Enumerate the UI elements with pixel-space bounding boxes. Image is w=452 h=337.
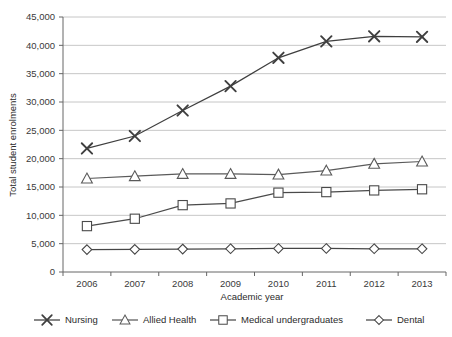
y-tick-label: 5,000 <box>31 238 55 249</box>
y-tick-label: 15,000 <box>26 181 55 192</box>
line-chart: 05,00010,00015,00020,00025,00030,00035,0… <box>0 0 452 337</box>
x-axis-title: Academic year <box>221 291 284 302</box>
y-tick-label: 40,000 <box>26 40 55 51</box>
legend-label: Medical undergraduates <box>241 314 343 325</box>
legend-item-allied-health[interactable]: Allied Health <box>112 314 196 325</box>
y-tick-label: 35,000 <box>26 68 55 79</box>
data-point-square <box>370 186 379 195</box>
data-point-square <box>130 214 139 223</box>
y-tick-label: 10,000 <box>26 210 55 221</box>
data-point-square <box>322 188 331 197</box>
data-point-square <box>226 199 235 208</box>
y-tick-label: 45,000 <box>26 11 55 22</box>
data-point-square <box>82 222 91 231</box>
x-tick-label: 2011 <box>316 278 336 289</box>
y-tick-label: 30,000 <box>26 96 55 107</box>
x-tick-label: 2009 <box>220 278 241 289</box>
legend-label: Nursing <box>65 314 98 325</box>
data-point-square <box>219 316 227 324</box>
chart-container: 05,00010,00015,00020,00025,00030,00035,0… <box>0 0 452 337</box>
data-point-square <box>178 201 187 210</box>
legend-label: Dental <box>397 314 424 325</box>
data-point-square <box>417 185 426 194</box>
x-tick-label: 2010 <box>268 278 289 289</box>
legend-label: Allied Health <box>143 314 196 325</box>
x-tick-label: 2007 <box>124 278 145 289</box>
x-tick-label: 2006 <box>76 278 97 289</box>
data-point-square <box>274 188 283 197</box>
x-tick-label: 2012 <box>364 278 385 289</box>
y-tick-label: 20,000 <box>26 153 55 164</box>
y-tick-label: 25,000 <box>26 125 55 136</box>
x-tick-label: 2008 <box>172 278 193 289</box>
y-tick-label: 0 <box>50 266 55 277</box>
legend-item-nursing[interactable]: Nursing <box>34 314 98 325</box>
y-axis-title: Total student enrolments <box>7 93 18 197</box>
x-tick-label: 2013 <box>411 278 432 289</box>
